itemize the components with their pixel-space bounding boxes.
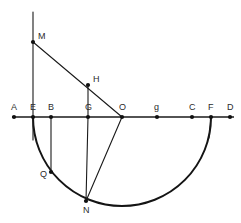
point-label-H: H — [93, 74, 100, 84]
point-label-M: M — [38, 31, 46, 41]
point-dot-G[interactable] — [86, 115, 90, 119]
point-dot-E[interactable] — [31, 115, 35, 119]
point-dot-B[interactable] — [49, 115, 53, 119]
point-dot-H[interactable] — [86, 83, 90, 87]
point-dot-g[interactable] — [155, 115, 159, 119]
point-label-g: g — [154, 102, 159, 112]
point-label-O: O — [119, 102, 126, 112]
segment-O-to-N — [86, 117, 122, 201]
arc-layer — [33, 117, 211, 206]
point-label-B: B — [48, 102, 54, 112]
point-dot-A[interactable] — [12, 115, 16, 119]
point-label-N: N — [83, 205, 90, 215]
point-label-F: F — [208, 102, 214, 112]
point-label-A: A — [11, 102, 17, 112]
point-dot-D[interactable] — [228, 115, 232, 119]
segment-G-to-N — [86, 117, 88, 201]
segment-M-to-O — [33, 42, 122, 117]
point-label-E: E — [30, 102, 36, 112]
point-labels-layer: AEBGOgCFDMHNQ — [11, 31, 234, 215]
point-label-D: D — [227, 102, 234, 112]
point-dot-F[interactable] — [209, 115, 213, 119]
point-dot-M[interactable] — [31, 40, 35, 44]
point-dot-Q[interactable] — [49, 170, 53, 174]
point-dot-N[interactable] — [84, 199, 88, 203]
point-label-G: G — [85, 102, 92, 112]
point-dot-C[interactable] — [190, 115, 194, 119]
geometry-figure: AEBGOgCFDMHNQ — [0, 0, 241, 223]
geometry-canvas: AEBGOgCFDMHNQ — [0, 0, 241, 223]
point-dot-O[interactable] — [120, 115, 124, 119]
semicircle-arc — [33, 117, 211, 206]
point-label-Q: Q — [40, 169, 47, 179]
point-label-C: C — [189, 102, 196, 112]
